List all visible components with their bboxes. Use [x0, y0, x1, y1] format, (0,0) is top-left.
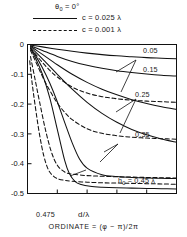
legend: θ0 = 0° c = 0.025 λ c = 0.001 λ	[0, 0, 187, 40]
curve-0.475-dashed	[30, 61, 177, 184]
x-tick-label: 0.2	[52, 197, 62, 199]
legend-dashed-swatch	[33, 30, 77, 31]
curve-label-0-05: 0.05	[143, 46, 158, 55]
y-tick-label: -0.5	[11, 189, 24, 198]
curve-label-0-25: 0.25	[135, 90, 150, 99]
legend-solid-swatch	[33, 18, 77, 19]
y-tick-label: -0.2	[11, 100, 24, 109]
figure-container: θ0 = 0° c = 0.025 λ c = 0.001 λ 0-0.1-0.…	[0, 0, 187, 237]
x-tick-label: 0.4	[82, 197, 92, 199]
curve-label-h-0-45-: h0 = 0.45 λ	[118, 176, 155, 186]
x-tick-label: 1.0	[171, 197, 181, 199]
label-leader-line	[100, 144, 118, 162]
plot-area: 0-0.1-0.2-0.3-0.4-0.500.20.40.60.81.0	[0, 38, 187, 198]
curve-label-0-475: 0.475	[36, 210, 55, 219]
legend-dashed-label: c = 0.001 λ	[82, 25, 121, 34]
x-axis-title: d/λ	[78, 210, 90, 219]
legend-condition: θ0 = 0°	[55, 2, 79, 12]
y-tick-label: -0.3	[11, 130, 24, 139]
curve-0.25	[30, 46, 176, 109]
y-tick-label: -0.4	[11, 159, 24, 168]
ordinate-caption: ORDINATE = (φ − π)/2π	[0, 222, 187, 231]
curve-label-rest: = 0.45 λ	[126, 176, 156, 185]
curve-label-0-15: 0.15	[143, 65, 158, 74]
plot-svg: 0-0.1-0.2-0.3-0.4-0.500.20.40.60.81.0	[0, 38, 187, 198]
legend-condition-rest: = 0°	[63, 2, 80, 11]
x-tick-label: 0.8	[141, 197, 151, 199]
curve-label-0-35: 0.35	[135, 130, 150, 139]
y-tick-label: -0.1	[11, 70, 24, 79]
x-tick-label: 0	[25, 197, 29, 199]
legend-solid-label: c = 0.025 λ	[82, 13, 121, 22]
x-tick-label: 0.6	[112, 197, 122, 199]
curve-0.35-dashed	[30, 50, 176, 139]
y-tick-label: 0	[20, 40, 24, 49]
